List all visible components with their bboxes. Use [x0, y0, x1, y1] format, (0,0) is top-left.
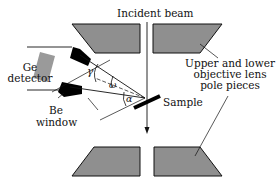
- pole-pieces-label-line3: pole pieces: [180, 80, 276, 91]
- pole-pointer-upper: [200, 44, 218, 58]
- incident-beam-label: Incident beam: [117, 8, 194, 19]
- sample-normal-line: [100, 98, 145, 120]
- beam-arrow-icon: [145, 127, 150, 134]
- lower-right-pole-piece: [154, 147, 222, 176]
- alpha-symbol: α: [126, 93, 132, 104]
- diagram-canvas: [0, 0, 276, 186]
- lower-left-pole-piece: [72, 147, 140, 176]
- ge-detector-label-line2: detector: [4, 73, 56, 84]
- be-window-pointer-2: [88, 98, 98, 110]
- omega-symbol: ω: [109, 80, 116, 91]
- be-window-label-line2: window: [36, 117, 76, 128]
- gamma-symbol: γ: [87, 66, 93, 77]
- upper-collimator: [70, 47, 91, 66]
- sample-label: Sample: [163, 97, 203, 108]
- be-window-label-line1: Be: [36, 105, 76, 116]
- upper-left-pole-piece: [72, 24, 140, 53]
- upper-right-pole-piece: [153, 24, 222, 53]
